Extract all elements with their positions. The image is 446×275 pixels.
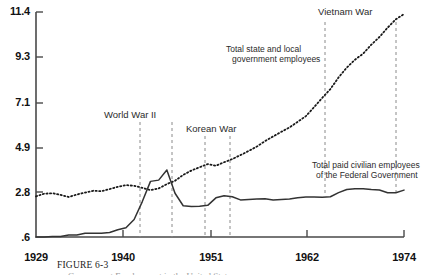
annotation-state-local-employees: Total state and local government employe… [226,44,320,65]
x-axis-ticks [123,230,404,237]
annotation-state-local-line2: government employees [232,54,320,64]
figure-caption-subtitle: Government Employment in the United Stat… [68,271,398,275]
annotation-federal-employees: Total paid civilian employees of the Fed… [312,160,420,181]
annotation-federal-line1: Total paid civilian employees [312,160,420,170]
annotation-vietnam-war: Vietnam War [318,6,372,18]
y-axis-ticks [36,12,43,192]
figure-caption-label: FIGURE 6-3 [57,260,108,270]
annotation-state-local-line1: Total state and local [226,44,301,54]
annotation-korean-war: Korean War [186,123,236,135]
annotation-federal-line2: of the Federal Government [316,170,418,180]
annotation-world-war-ii: World War II [104,109,156,121]
